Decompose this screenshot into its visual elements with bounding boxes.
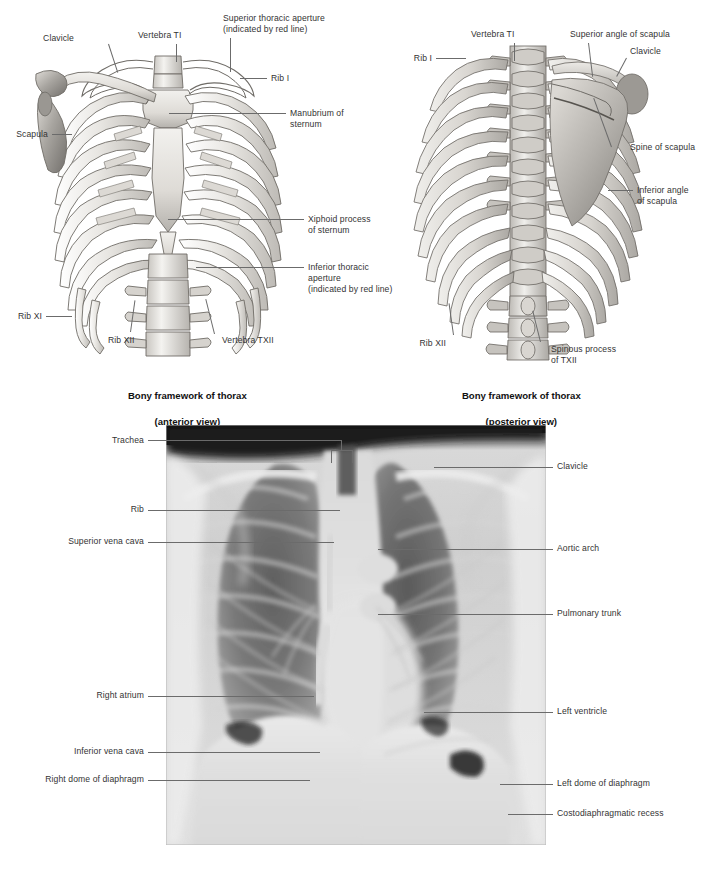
- anterior-label-xiphoid-line2: of sternum: [308, 225, 350, 236]
- radiograph-leader-aortic-arch: [378, 549, 553, 550]
- radiograph-label-aortic-arch: Aortic arch: [557, 543, 599, 554]
- anterior-leader-manubrium: [169, 113, 286, 114]
- radiograph-trachea-bracket-left: [331, 450, 332, 463]
- radiograph-label-trachea: Trachea: [56, 435, 144, 446]
- anterior-label-vertebra-ti: Vertebra TI: [138, 30, 181, 41]
- radiograph-label-right-atrium: Right atrium: [60, 690, 144, 701]
- radiograph-leader-trachea-drop: [341, 440, 342, 450]
- posterior-label-rib-i: Rib I: [400, 53, 432, 64]
- radiograph-trachea-bracket-right: [352, 450, 353, 463]
- radiograph-leader-right-dome-of-diaphragm: [148, 780, 310, 781]
- anterior-label-superior-thoracic-aperture-line1: Superior thoracic aperture: [223, 13, 325, 24]
- posterior-label-spine-of-scapula: Spine of scapula: [630, 142, 695, 153]
- radiograph-leader-inferior-vena-cava: [148, 752, 320, 753]
- anterior-leader-rib-i: [240, 78, 267, 79]
- anterior-label-superior-thoracic-aperture-line2: (indicated by red line): [223, 24, 307, 35]
- anterior-leader-scapula: [52, 134, 72, 135]
- radiograph-label-rib: Rib: [60, 504, 144, 515]
- posterior-thorax-illustration: [400, 38, 660, 368]
- posterior-label-inferior-angle-line1: Inferior angle: [637, 185, 689, 196]
- radiograph-label-superior-vena-cava: Superior vena cava: [40, 536, 144, 547]
- radiograph-leader-pulmonary-trunk: [378, 614, 553, 615]
- anterior-thorax-illustration: [18, 38, 318, 358]
- radiograph-label-left-ventricle: Left ventricle: [557, 706, 607, 717]
- radiograph-label-right-dome-of-diaphragm: Right dome of diaphragm: [16, 774, 144, 785]
- posterior-label-spinous-process-line1: Spinous process: [551, 344, 616, 355]
- radiograph-leader-costodiaphragmatic-recess: [508, 814, 553, 815]
- anterior-leader-superior-thoracic-aperture: [230, 38, 231, 72]
- radiograph-label-left-dome-of-diaphragm: Left dome of diaphragm: [557, 778, 650, 789]
- posterior-caption-line1: Bony framework of thorax: [462, 390, 581, 401]
- anterior-label-xiphoid-line1: Xiphoid process: [308, 214, 371, 225]
- radiograph-leader-rib: [148, 510, 340, 511]
- anterior-label-rib-xi: Rib XI: [0, 311, 42, 322]
- radiograph-label-clavicle: Clavicle: [557, 461, 588, 472]
- anterior-label-rib-xii: Rib XII: [108, 335, 135, 346]
- posterior-label-rib-xii: Rib XII: [410, 338, 446, 349]
- anatomy-figure-page: Clavicle Vertebra TI Superior thoracic a…: [0, 0, 711, 874]
- anterior-label-manubrium-line2: sternum: [290, 119, 322, 130]
- anterior-leader-inferior-aperture: [196, 267, 304, 268]
- anterior-label-scapula: Scapula: [2, 129, 48, 140]
- radiograph-leader-left-dome-of-diaphragm: [500, 784, 553, 785]
- anterior-label-inferior-aperture-line1: Inferior thoracic: [308, 262, 369, 273]
- anterior-label-manubrium-line1: Manubrium of: [290, 108, 344, 119]
- anterior-label-inferior-aperture-line2: aperture: [308, 273, 341, 284]
- anterior-label-vertebra-txii: Vertebra TXII: [222, 335, 274, 346]
- anterior-leader-xiphoid: [168, 219, 304, 220]
- radiograph-leader-right-atrium: [148, 696, 314, 697]
- radiograph-leader-trachea: [148, 440, 342, 441]
- anterior-caption-line1: Bony framework of thorax: [128, 390, 247, 401]
- anterior-label-inferior-aperture-line3: (indicated by red line): [308, 284, 392, 295]
- posterior-leader-rib-i: [436, 58, 466, 59]
- posterior-label-superior-angle-scapula: Superior angle of scapula: [570, 29, 670, 40]
- chest-radiograph: [166, 425, 546, 845]
- anterior-label-rib-i: Rib I: [271, 73, 289, 84]
- radiograph-label-costodiaphragmatic-recess: Costodiaphragmatic recess: [557, 808, 664, 819]
- posterior-label-clavicle: Clavicle: [630, 46, 661, 57]
- posterior-leader-inferior-angle: [608, 190, 633, 191]
- radiograph-leader-left-ventricle: [424, 712, 553, 713]
- anterior-label-clavicle: Clavicle: [20, 33, 74, 44]
- radiograph-trachea-bracket-top: [331, 450, 353, 451]
- radiograph-label-inferior-vena-cava: Inferior vena cava: [46, 746, 144, 757]
- posterior-label-spinous-process-line2: of TXII: [551, 355, 577, 366]
- anterior-leader-vertebra-ti: [176, 44, 177, 62]
- posterior-label-vertebra-ti: Vertebra TI: [471, 29, 514, 40]
- radiograph-leader-clavicle: [434, 467, 553, 468]
- radiograph-label-pulmonary-trunk: Pulmonary trunk: [557, 608, 621, 619]
- posterior-leader-vertebra-ti: [514, 43, 515, 61]
- radiograph-leader-superior-vena-cava: [148, 542, 334, 543]
- posterior-label-inferior-angle-line2: of scapula: [637, 196, 677, 207]
- anterior-leader-rib-xi: [46, 316, 72, 317]
